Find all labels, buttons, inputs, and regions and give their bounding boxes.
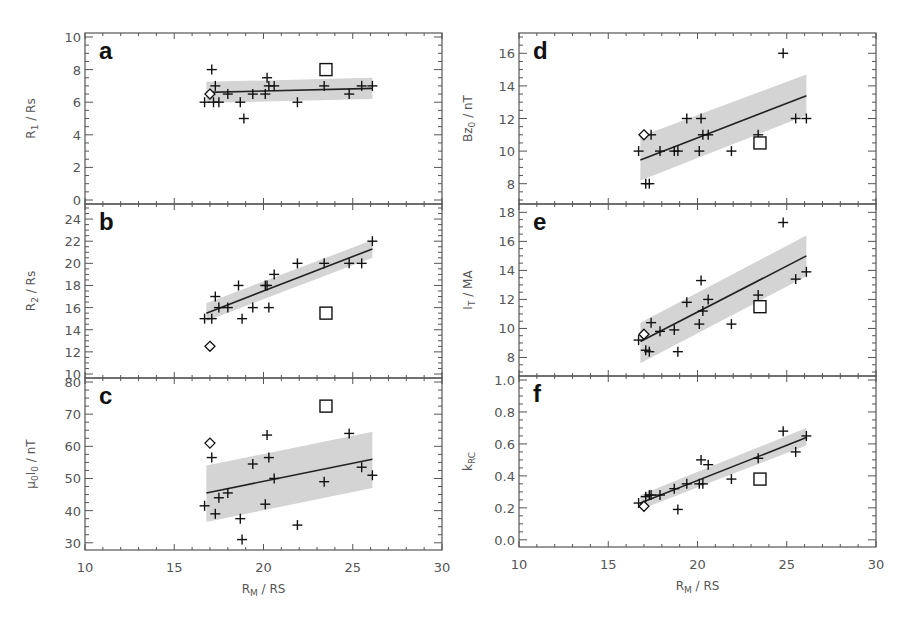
plus-marker xyxy=(726,146,736,156)
y-tick-label: 18 xyxy=(64,278,81,293)
plus-marker xyxy=(726,319,736,329)
plus-marker xyxy=(237,314,247,324)
y-tick-label: 16 xyxy=(498,46,515,61)
y-tick-label: 0.2 xyxy=(494,501,515,516)
x-tick-label: 25 xyxy=(778,557,795,572)
panel-letter: f xyxy=(533,380,542,407)
x-tick-label: 15 xyxy=(166,560,183,575)
y-tick-label: 0.8 xyxy=(494,405,515,420)
y-axis-title: IT / MA xyxy=(461,270,477,310)
plus-marker xyxy=(778,218,788,228)
y-axis-title: R1 / Rs xyxy=(24,98,40,138)
axes-frame xyxy=(85,33,442,204)
x-axis-title: RM / RS xyxy=(242,582,286,598)
y-tick-label: 1.0 xyxy=(494,373,515,388)
plus-marker xyxy=(696,276,706,286)
panel-letter: a xyxy=(99,37,113,64)
plus-marker xyxy=(264,303,274,313)
panel-letter: d xyxy=(533,37,548,64)
square-marker xyxy=(754,473,766,485)
diamond-marker xyxy=(205,438,215,448)
diamond-marker xyxy=(205,341,215,351)
y-tick-label: 0.6 xyxy=(494,437,515,452)
panel-e: 81012141618IT / MAe xyxy=(461,204,876,376)
y-tick-label: 16 xyxy=(498,234,515,249)
panel-d: 810121416Bz0 / nTd xyxy=(461,33,876,204)
plus-marker xyxy=(292,258,302,268)
y-tick-label: 10 xyxy=(498,144,515,159)
panel-a: 0246810R1 / Rsa xyxy=(24,30,442,208)
panel-b: 1012141618202224R2 / Rsb xyxy=(24,204,442,382)
panel-f: 1015202530RM / RS0.00.20.40.60.81.0kRCf xyxy=(461,373,884,595)
plus-marker xyxy=(292,520,302,530)
y-tick-label: 0 xyxy=(73,193,81,208)
x-axis-title: RM / RS xyxy=(676,579,720,595)
y-axis-title: kRC xyxy=(461,452,477,471)
y-tick-label: 80 xyxy=(64,375,81,390)
y-tick-label: 40 xyxy=(64,504,81,519)
y-tick-label: 30 xyxy=(64,536,81,551)
x-tick-label: 20 xyxy=(689,557,706,572)
y-tick-label: 50 xyxy=(64,471,81,486)
y-tick-label: 10 xyxy=(498,321,515,336)
axes-frame xyxy=(519,204,876,376)
y-tick-label: 70 xyxy=(64,407,81,422)
y-tick-label: 12 xyxy=(64,345,81,360)
plus-marker xyxy=(673,504,683,514)
x-tick-label: 30 xyxy=(434,560,451,575)
y-tick-label: 14 xyxy=(498,263,515,278)
y-tick-label: 60 xyxy=(64,439,81,454)
y-tick-label: 10 xyxy=(64,30,81,45)
square-marker xyxy=(754,137,766,149)
square-marker xyxy=(320,307,332,319)
y-tick-label: 14 xyxy=(498,79,515,94)
x-tick-label: 20 xyxy=(255,560,272,575)
fit-line xyxy=(640,438,806,504)
plus-marker xyxy=(262,430,272,440)
y-tick-label: 12 xyxy=(498,292,515,307)
plus-marker xyxy=(778,426,788,436)
plus-marker xyxy=(673,347,683,357)
plus-marker xyxy=(778,48,788,58)
y-tick-label: 8 xyxy=(507,177,515,192)
y-tick-label: 14 xyxy=(64,323,81,338)
square-marker xyxy=(320,400,332,412)
panel-letter: e xyxy=(533,208,546,235)
y-tick-label: 8 xyxy=(507,350,515,365)
y-tick-label: 12 xyxy=(498,112,515,127)
square-marker xyxy=(754,301,766,313)
confidence-band xyxy=(640,428,806,510)
y-tick-label: 0.0 xyxy=(494,533,515,548)
y-axis-title: Bz0 / nT xyxy=(461,94,477,142)
y-tick-label: 8 xyxy=(73,63,81,78)
x-tick-label: 30 xyxy=(868,557,885,572)
x-tick-label: 15 xyxy=(600,557,617,572)
x-tick-label: 25 xyxy=(344,560,361,575)
panel-c: 1015202530RM / RS304050607080μ0I0 / nTc xyxy=(24,375,450,598)
y-tick-label: 16 xyxy=(64,301,81,316)
y-tick-label: 24 xyxy=(64,212,81,227)
plus-marker xyxy=(234,280,244,290)
plus-marker xyxy=(239,114,249,124)
y-axis-title: R2 / Rs xyxy=(24,271,40,311)
plus-marker xyxy=(696,455,706,465)
panel-letter: c xyxy=(99,382,112,409)
y-tick-label: 4 xyxy=(73,128,81,143)
square-marker xyxy=(320,64,332,76)
axes-frame xyxy=(519,376,876,547)
panel-letter: b xyxy=(99,208,114,235)
fit-line xyxy=(206,249,372,313)
x-tick-label: 10 xyxy=(511,557,528,572)
y-tick-label: 18 xyxy=(498,205,515,220)
plus-marker xyxy=(207,453,217,463)
y-tick-label: 6 xyxy=(73,95,81,110)
x-tick-label: 10 xyxy=(77,560,94,575)
y-axis-title: μ0I0 / nT xyxy=(24,439,40,489)
figure: 0246810R1 / Rsa 1012141618202224R2 / Rsb… xyxy=(0,0,909,619)
y-tick-label: 20 xyxy=(64,256,81,271)
y-tick-label: 22 xyxy=(64,234,81,249)
plus-marker xyxy=(207,65,217,75)
plus-marker xyxy=(237,535,247,545)
fit-line xyxy=(640,256,806,342)
y-tick-label: 0.4 xyxy=(494,469,515,484)
